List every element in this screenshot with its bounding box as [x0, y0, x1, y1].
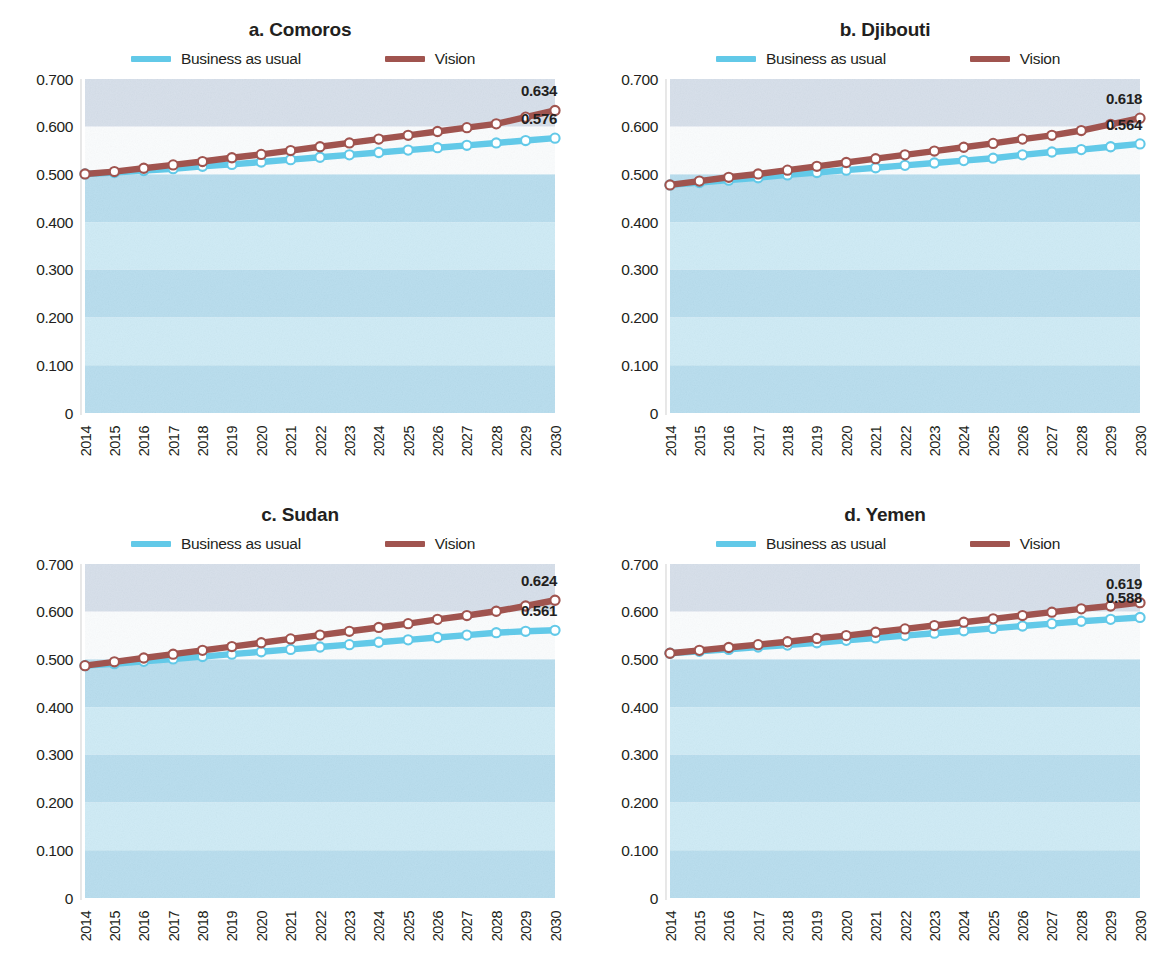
figure-panel-grid: a. ComorosBusiness as usualVision0.7000.… [0, 0, 1155, 971]
data-point-marker [550, 626, 559, 635]
x-axis-tick-label: 2026 [1015, 911, 1031, 942]
data-point-marker [1135, 613, 1144, 622]
legend-label-bau: Business as usual [766, 50, 886, 68]
legend-swatch-vision-icon [385, 56, 425, 62]
chart-legend: Business as usualVision [36, 48, 570, 70]
data-point-marker [900, 161, 909, 170]
data-point-marker [989, 624, 998, 633]
chart-legend: Business as usualVision [36, 533, 570, 555]
x-axis-tick-label: 2024 [956, 426, 972, 457]
panel-title: a. Comoros [30, 18, 570, 42]
y-axis-tick-label: 0.100 [621, 842, 659, 859]
data-point-marker [257, 150, 266, 159]
data-point-marker [286, 645, 295, 654]
data-point-marker [462, 630, 471, 639]
data-point-marker [1047, 131, 1056, 140]
x-axis-tick-label: 2029 [518, 911, 534, 942]
x-axis-tick-label: 2022 [313, 911, 329, 942]
legend-swatch-bau-icon [716, 56, 756, 62]
x-axis-tick-label: 2026 [430, 911, 446, 942]
x-axis-tick-label: 2030 [1133, 426, 1149, 457]
data-point-marker [1135, 139, 1144, 148]
data-point-marker [665, 649, 674, 658]
data-point-marker [433, 615, 442, 624]
legend-swatch-bau-icon [131, 541, 171, 547]
y-axis-tick-label: 0.100 [36, 357, 74, 374]
x-axis-tick-label: 2016 [721, 911, 737, 942]
legend-label-bau: Business as usual [766, 535, 886, 553]
panel-title: d. Yemen [615, 503, 1155, 527]
x-axis-tick-label: 2026 [1015, 426, 1031, 457]
data-point-marker [257, 638, 266, 647]
x-axis-tick-label: 2016 [136, 426, 152, 457]
data-point-marker [315, 142, 324, 151]
x-axis-tick-label: 2028 [489, 426, 505, 457]
data-point-marker [900, 150, 909, 159]
x-axis-tick-label: 2014 [78, 426, 94, 457]
x-axis-tick-label: 2025 [401, 911, 417, 942]
x-axis-tick-label: 2029 [1103, 911, 1119, 942]
data-point-marker [812, 634, 821, 643]
data-point-marker [521, 627, 530, 636]
data-point-marker [989, 154, 998, 163]
chart-panel-a: a. ComorosBusiness as usualVision0.7000.… [0, 0, 570, 485]
data-point-marker [1077, 617, 1086, 626]
data-point-marker [345, 138, 354, 147]
vision-end-value-label: 0.624 [521, 572, 558, 589]
data-point-marker [315, 630, 324, 639]
data-point-marker [110, 167, 119, 176]
x-axis-tick-label: 2025 [401, 426, 417, 457]
data-point-marker [724, 173, 733, 182]
data-point-marker [110, 657, 119, 666]
chart-panel-d: d. YemenBusiness as usualVision0.7000.60… [585, 485, 1155, 970]
y-axis-tick-label: 0.500 [36, 651, 74, 668]
data-point-marker [1047, 619, 1056, 628]
legend-label-vision: Vision [435, 535, 475, 553]
x-axis-tick-label: 2021 [868, 426, 884, 457]
data-point-marker [989, 139, 998, 148]
data-point-marker [871, 154, 880, 163]
data-point-marker [1018, 621, 1027, 630]
vision-end-value-label: 0.618 [1106, 90, 1142, 107]
y-axis-tick-label: 0.200 [36, 794, 74, 811]
x-axis-tick-label: 2029 [1103, 426, 1119, 457]
data-point-marker [871, 163, 880, 172]
x-axis-tick-label: 2020 [839, 911, 855, 942]
legend-swatch-vision-icon [385, 541, 425, 547]
x-axis-tick-label: 2015 [107, 426, 123, 457]
y-axis-tick-label: 0.200 [36, 309, 74, 326]
x-axis-tick-label: 2015 [692, 426, 708, 457]
data-point-marker [433, 633, 442, 642]
x-axis-tick-label: 2030 [1133, 911, 1149, 942]
y-axis-tick-label: 0.100 [36, 842, 74, 859]
x-axis-tick-label: 2023 [927, 911, 943, 942]
x-axis-tick-label: 2026 [430, 426, 446, 457]
legend-swatch-bau-icon [131, 56, 171, 62]
y-axis-tick-label: 0.400 [621, 214, 659, 231]
x-axis-tick-label: 2015 [107, 911, 123, 942]
data-point-marker [1077, 126, 1086, 135]
data-point-marker [783, 166, 792, 175]
x-axis-tick-label: 2027 [459, 426, 475, 457]
data-point-marker [1018, 611, 1027, 620]
y-axis-tick-label: 0.600 [36, 603, 74, 620]
data-point-marker [1077, 604, 1086, 613]
bau-end-value-label: 0.561 [521, 602, 557, 619]
legend-label-vision: Vision [435, 50, 475, 68]
y-axis-tick-label: 0.600 [621, 603, 659, 620]
x-axis-tick-label: 2019 [224, 426, 240, 457]
data-point-marker [315, 642, 324, 651]
y-axis-tick-label: 0.400 [36, 214, 74, 231]
legend-item-vision: Vision [385, 50, 475, 68]
data-point-marker [404, 131, 413, 140]
x-axis-tick-label: 2021 [283, 426, 299, 457]
data-point-marker [169, 160, 178, 169]
data-point-marker [433, 143, 442, 152]
x-axis-tick-label: 2014 [663, 911, 679, 942]
x-axis-tick-label: 2028 [1074, 426, 1090, 457]
data-point-marker [1018, 135, 1027, 144]
data-point-marker [1018, 150, 1027, 159]
data-point-marker [404, 145, 413, 154]
y-axis-tick-label: 0.400 [36, 699, 74, 716]
x-axis-tick-label: 2016 [136, 911, 152, 942]
